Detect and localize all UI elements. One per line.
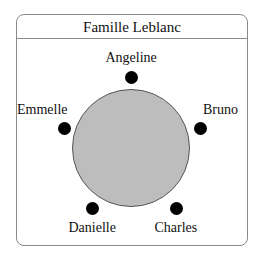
seat-label-emmelle: Emmelle <box>17 102 68 118</box>
seat-label-charles: Charles <box>155 220 198 236</box>
seat-dot-danielle <box>86 202 99 215</box>
seat-dot-charles <box>170 202 183 215</box>
round-table <box>72 89 190 207</box>
seat-dot-angeline <box>125 71 138 84</box>
card-title: Famille Leblanc <box>17 15 247 39</box>
seat-label-angeline: Angeline <box>106 50 157 66</box>
seat-label-bruno: Bruno <box>203 102 238 118</box>
seat-dot-bruno <box>194 122 207 135</box>
seat-label-danielle: Danielle <box>69 220 116 236</box>
seat-dot-emmelle <box>58 122 71 135</box>
